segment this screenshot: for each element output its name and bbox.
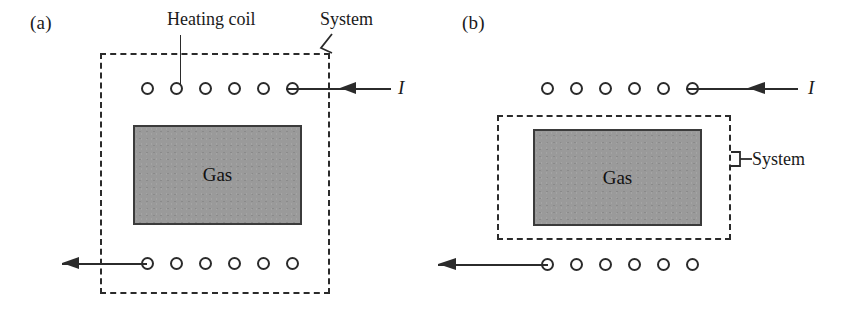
- coil-bottom-a-dot: [257, 257, 270, 270]
- coil-bottom-a-dot: [286, 257, 299, 270]
- gas-label-a: Gas: [135, 164, 300, 186]
- coil-bottom-a-dot: [199, 257, 212, 270]
- coil-row-top-a: [141, 82, 286, 96]
- system-annotation-label-a: System: [320, 9, 373, 30]
- figure-thermodynamic-system-boundaries: (a) Heating coil System Gas I: [0, 0, 853, 311]
- coil-top-b-dot: [599, 82, 612, 95]
- current-wire-bottom-b: [438, 264, 548, 266]
- gas-label-b: Gas: [535, 167, 700, 189]
- system-annotation-label-b: System: [752, 149, 805, 170]
- current-wire-bottom-a: [62, 263, 147, 265]
- coil-bottom-b-dot: [570, 258, 583, 271]
- coil-top-b-dot: [570, 82, 583, 95]
- panel-b-label: (b): [462, 12, 485, 34]
- heating-coil-annotation-label: Heating coil: [167, 9, 255, 30]
- coil-top-b-dot: [657, 82, 670, 95]
- coil-top-b-dot: [628, 82, 641, 95]
- coil-bottom-b-dot: [686, 258, 699, 271]
- coil-row-bottom-a: [141, 257, 286, 271]
- panel-a: (a) Heating coil System Gas I: [0, 0, 430, 311]
- coil-row-top-b: [541, 82, 686, 96]
- current-wire-top-a: [286, 88, 391, 90]
- coil-top-a-dot: [141, 82, 154, 95]
- coil-row-bottom-b: [541, 258, 686, 272]
- panel-b: (b) System Gas I: [430, 0, 853, 311]
- coil-bottom-a-dot: [228, 257, 241, 270]
- current-wire-top-b: [686, 88, 798, 90]
- coil-bottom-b-dot: [599, 258, 612, 271]
- gas-block-a: Gas: [133, 125, 302, 225]
- coil-top-a-dot: [199, 82, 212, 95]
- coil-top-a-dot: [228, 82, 241, 95]
- current-label-a: I: [398, 77, 404, 99]
- coil-top-a-dot: [170, 82, 183, 95]
- system-leader-line-a: [321, 34, 332, 53]
- system-leader-bracket-b: [731, 152, 740, 166]
- gas-block-b: Gas: [533, 129, 702, 226]
- coil-top-b-dot: [541, 82, 554, 95]
- heating-coil-leader-line: [180, 35, 181, 87]
- current-label-b: I: [808, 77, 814, 99]
- coil-bottom-b-dot: [628, 258, 641, 271]
- coil-top-a-dot: [257, 82, 270, 95]
- panel-a-label: (a): [30, 12, 52, 34]
- coil-bottom-b-dot: [657, 258, 670, 271]
- coil-bottom-a-dot: [170, 257, 183, 270]
